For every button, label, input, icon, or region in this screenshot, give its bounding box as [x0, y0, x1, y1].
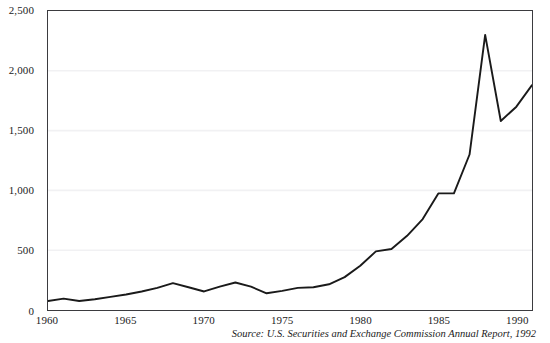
x-axis-tick-label: 1970: [193, 315, 215, 326]
x-axis-tick-label: 1960: [36, 315, 58, 326]
x-axis-tick-label: 1980: [349, 315, 371, 326]
x-axis-tick-labels: 1960196519701975198019851990: [0, 0, 550, 343]
x-axis-tick-label: 1990: [506, 315, 528, 326]
x-axis-tick-label: 1965: [114, 315, 136, 326]
x-axis-tick-label: 1985: [428, 315, 450, 326]
x-axis-tick-label: 1975: [271, 315, 293, 326]
chart-figure: 05001,0001,5002,0002,500 196019651970197…: [0, 0, 550, 343]
source-note: Source: U.S. Securities and Exchange Com…: [0, 328, 536, 340]
